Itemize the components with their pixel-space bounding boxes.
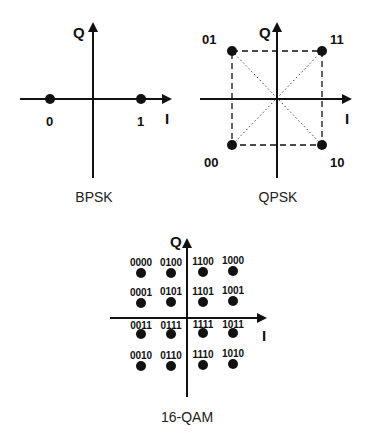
qpsk-point-11	[317, 46, 327, 56]
qam16-point-label: 0110	[160, 350, 182, 361]
qam16-point-label: 1101	[192, 286, 214, 297]
qam16-point	[136, 298, 146, 308]
bpsk-point-0	[45, 94, 55, 104]
qam16-point-label: 0001	[130, 287, 153, 298]
qam16-i-label: I	[262, 327, 266, 344]
qam16-point	[198, 328, 208, 338]
qam16-point-label: 1010	[222, 348, 245, 359]
qpsk-point-10	[317, 140, 327, 150]
constellation-diagrams: Q I 0 1 BPSK Q I 01 11 00 10 QPSK Q I	[0, 0, 368, 434]
bpsk-diagram: Q I 0 1 BPSK	[20, 24, 170, 205]
qam16-point	[166, 361, 176, 371]
qam16-point	[136, 268, 146, 278]
qpsk-point-label: 10	[330, 155, 344, 170]
qam16-point-label: 1001	[222, 285, 245, 296]
qam16-point-label: 0100	[160, 257, 183, 268]
qam16-point	[228, 328, 238, 338]
qam16-point	[198, 360, 208, 370]
qam16-q-label: Q	[170, 233, 182, 250]
qpsk-diagram: Q I 01 11 00 10 QPSK	[200, 24, 350, 205]
bpsk-point-label: 1	[137, 114, 144, 129]
bpsk-title: BPSK	[75, 189, 113, 205]
qam16-point	[166, 329, 176, 339]
qam16-point	[166, 268, 176, 278]
bpsk-q-label: Q	[73, 24, 85, 41]
qam16-point-label: 0010	[130, 350, 153, 361]
qam16-point-label: 1000	[222, 255, 245, 266]
qpsk-point-label: 00	[204, 155, 218, 170]
bpsk-point-label: 0	[46, 114, 53, 129]
qpsk-point-label: 01	[202, 32, 216, 47]
qpsk-q-label: Q	[259, 24, 271, 41]
qam16-point-label: 0000	[130, 257, 153, 268]
bpsk-point-1	[136, 94, 146, 104]
qam16-point	[166, 297, 176, 307]
qpsk-point-01	[227, 46, 237, 56]
qam16-point-label: 1100	[192, 256, 214, 267]
qpsk-point-label: 11	[330, 32, 344, 47]
qpsk-i-label: I	[345, 110, 349, 127]
qam16-point	[228, 296, 238, 306]
qam16-title: 16-QAM	[161, 409, 213, 425]
qam16-point-label: 1110	[192, 349, 214, 360]
qam16-point	[136, 329, 146, 339]
qam16-diagram: Q I 0000 0100 1100 1000 0001 0101 1101 1…	[110, 233, 266, 425]
qpsk-point-00	[227, 140, 237, 150]
qam16-point	[228, 359, 238, 369]
qpsk-title: QPSK	[259, 189, 299, 205]
qam16-point	[228, 266, 238, 276]
qam16-point	[136, 361, 146, 371]
qam16-point	[198, 267, 208, 277]
bpsk-i-label: I	[165, 110, 169, 127]
qam16-point-label: 0101	[160, 286, 183, 297]
qam16-point	[198, 297, 208, 307]
